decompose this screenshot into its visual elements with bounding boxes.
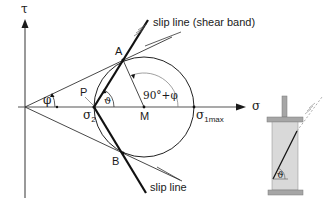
label-theta: ϑ	[104, 95, 111, 106]
lower-slip-line-leader	[157, 167, 180, 180]
label-P: P	[80, 86, 87, 98]
tau-axis-arrow-icon	[22, 19, 29, 28]
lower-slip-line	[94, 107, 146, 193]
lower-envelope-line	[25, 107, 182, 181]
label-ninety-plus-phi: 90°+φ	[143, 89, 178, 101]
specimen-hatch-icon	[305, 103, 315, 114]
P-leader	[85, 97, 93, 105]
point-M	[143, 106, 146, 109]
label-sigma1max: σ1max	[196, 108, 224, 124]
point-P	[92, 105, 95, 108]
specimen-shear-band-extension	[297, 97, 322, 131]
specimen-bottom-plate	[268, 190, 303, 195]
specimen-illustration: ϑ	[267, 96, 322, 195]
point-B	[121, 151, 124, 154]
specimen-theta-label: ϑ	[277, 170, 284, 180]
label-A: A	[115, 45, 123, 57]
label-M: M	[140, 110, 149, 122]
label-phi: φ	[43, 93, 51, 107]
mohr-circle-diagram: τ σ A B P M σ2 σ1max φ	[0, 0, 335, 209]
sigma-axis-arrow-icon	[236, 104, 246, 111]
label-upper-slip-line: slip line (shear band)	[153, 16, 255, 28]
point-phi-tick	[56, 106, 58, 108]
point-A	[121, 58, 124, 61]
label-B: B	[112, 155, 119, 167]
upper-slip-line	[94, 20, 148, 107]
radius-MA	[123, 60, 144, 107]
label-lower-slip-line: slip line	[150, 181, 187, 193]
sigma-axis-label: σ	[252, 99, 260, 113]
specimen-loading-rod	[282, 96, 287, 117]
specimen-top-plate	[267, 117, 303, 122]
tau-axis-label: τ	[21, 2, 28, 16]
slip-line-leader	[145, 32, 181, 46]
point-sigma1max	[193, 106, 196, 109]
